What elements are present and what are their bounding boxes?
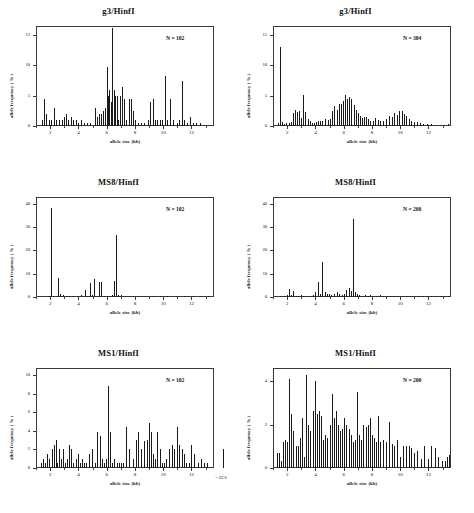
bar: [323, 440, 324, 468]
bar: [144, 123, 145, 126]
x-tick-mark: [191, 468, 192, 471]
bar: [380, 121, 381, 126]
x-tick-mark: [50, 297, 51, 300]
x-tick-minor: [330, 126, 331, 128]
bar: [166, 459, 167, 468]
bar-series: [237, 171, 474, 342]
bar: [87, 296, 88, 297]
bar: [284, 296, 285, 297]
bar: [155, 459, 156, 468]
x-tick-minor: [64, 126, 65, 128]
bar: [60, 294, 61, 297]
bar: [397, 296, 398, 297]
bar: [280, 296, 281, 297]
bar: [420, 123, 421, 126]
bar: [201, 459, 202, 468]
x-tick-minor: [177, 468, 178, 470]
bar: [108, 386, 109, 468]
bar: [295, 110, 296, 126]
bar: [417, 451, 418, 468]
bar: [201, 296, 202, 297]
bar: [100, 436, 101, 468]
bar: [383, 296, 384, 297]
bar: [177, 427, 178, 468]
x-tick-label: 2: [42, 472, 58, 477]
bar: [114, 281, 115, 297]
x-tick-label: 10: [155, 130, 171, 135]
bar: [370, 121, 371, 126]
bar: [373, 121, 374, 126]
x-tick-label: 6: [99, 301, 115, 306]
bar: [126, 427, 127, 468]
x-tick-minor: [273, 468, 274, 470]
bar: [73, 120, 74, 126]
bar: [378, 120, 379, 126]
bar: [440, 296, 441, 297]
bar: [318, 121, 319, 126]
bar: [95, 108, 96, 126]
bar: [322, 121, 323, 126]
bar: [301, 118, 302, 126]
x-tick-minor: [36, 297, 37, 299]
y-tick-mark: [33, 375, 36, 376]
bar: [51, 208, 52, 297]
bar: [421, 459, 422, 468]
bar: [101, 282, 102, 297]
bar: [349, 97, 350, 126]
bar: [284, 124, 285, 126]
bar: [141, 123, 142, 126]
x-tick-minor: [443, 468, 444, 470]
bar: [345, 95, 346, 127]
x-tick-minor: [443, 126, 444, 128]
bar: [289, 123, 290, 126]
bar: [291, 122, 292, 126]
bar: [53, 296, 54, 297]
bar: [153, 454, 154, 468]
bar: [157, 120, 158, 126]
x-tick-label: 6: [336, 472, 352, 477]
y-tick-mark: [270, 204, 273, 205]
bar: [448, 296, 449, 297]
x-tick-minor: [301, 468, 302, 470]
y-tick-label: 4: [251, 378, 267, 383]
bar: [306, 375, 307, 468]
y-tick-mark: [270, 381, 273, 382]
bar: [404, 114, 405, 126]
x-tick-label: 12: [420, 472, 436, 477]
bar: [315, 381, 316, 468]
bar: [414, 453, 415, 468]
bar: [42, 120, 43, 126]
bar: [304, 457, 305, 468]
bar: [351, 99, 352, 126]
bar: [336, 411, 337, 468]
bar: [373, 296, 374, 297]
bar: [151, 432, 152, 468]
x-axis-label: allele size (kb): [36, 139, 214, 144]
bar: [129, 296, 130, 297]
bar: [283, 442, 284, 468]
bar: [136, 440, 137, 468]
bar: [196, 123, 197, 126]
x-tick-mark: [315, 126, 316, 129]
bar: [191, 445, 192, 468]
x-tick-minor: [443, 297, 444, 299]
bar: [94, 279, 95, 297]
x-axis-label: allele size (kb): [36, 310, 214, 315]
bar: [293, 113, 294, 126]
bar: [117, 463, 118, 468]
y-tick-mark: [33, 449, 36, 450]
bar: [389, 116, 390, 126]
x-tick-label: 2: [42, 301, 58, 306]
bar: [90, 123, 91, 126]
x-axis-label: allele size (kb): [273, 481, 451, 486]
bar: [99, 114, 100, 126]
bar: [186, 463, 187, 468]
bar: [325, 292, 326, 297]
y-tick-label: 10: [251, 62, 267, 67]
x-tick-minor: [414, 297, 415, 299]
x-tick-label: 2: [279, 301, 295, 306]
chart-panel-g3-hinfi-right: g3/HinfIN = 38405101524681012allele size…: [237, 0, 474, 171]
x-tick-mark: [428, 297, 429, 300]
bar: [321, 416, 322, 468]
bar: [310, 431, 311, 468]
